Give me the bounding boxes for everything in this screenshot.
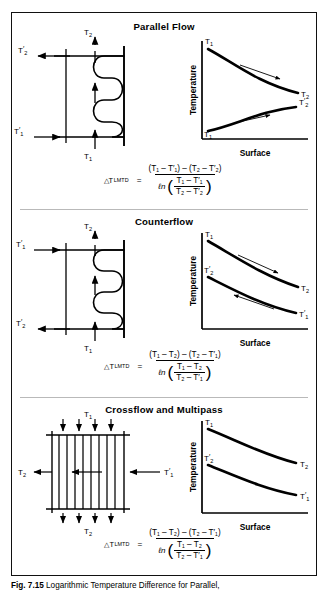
serpentine-tube [94, 250, 125, 329]
natural-log-symbol: ℓn [159, 369, 166, 377]
natural-log-symbol: ℓn [158, 183, 165, 191]
formula-equals: = [137, 541, 142, 549]
counterflow-chart: T1 T2 T′2 T′1 Surface Temperature [188, 230, 309, 348]
paren-open: ( [168, 545, 174, 557]
natural-log-symbol: ℓn [159, 547, 166, 555]
label-side-bottom: T′2 [16, 318, 25, 329]
label-side-bottom: T′1 [14, 126, 23, 137]
counterflow-graphics: T2 T1 T′1 T′2 T1 T2 T′2 T′1 Surface [12, 225, 316, 353]
tube-headers [54, 250, 124, 329]
crossflow-graphics: T1 T2 T2 T′1 T1 T2 T′2 T′1 Surface Tempe… [12, 413, 316, 535]
curve-hot-stream [208, 429, 296, 463]
tube-headers [54, 56, 124, 137]
parallel-flow-chart: T1 T2 T1 T′2 Surface Temperature [188, 37, 309, 158]
figure-caption: Fig. 7.15 Logarithmic Temperature Differ… [11, 581, 317, 595]
curve-hot-stream [208, 241, 298, 287]
figure-container: Parallel Flow [0, 0, 330, 596]
paren-close: ) [206, 181, 212, 193]
chart-label-hot-start: T1 [205, 418, 213, 428]
formula-numerator: (T₁ – T₂) – (T₂ – T′₁) [146, 529, 223, 538]
chart-label-hot-start: T1 [205, 37, 213, 47]
paren-close: ) [206, 367, 212, 379]
parallel-flow-graphics: T2 T1 T′2 T′1 T1 T2 T1 T′2 Surface [12, 31, 316, 161]
side-flow-arrows [34, 56, 70, 137]
crossflow-chart: T1 T2 T′2 T′1 Surface Temperature [188, 418, 309, 532]
paren-close: ) [206, 545, 212, 557]
formula-log-numerator: T₁ – T₂ [175, 541, 204, 550]
caption-text: Logarithmic Temperature Difference for P… [46, 581, 220, 590]
curve-cold-stream [208, 465, 296, 495]
chart-label-cold-end: T′1 [300, 491, 309, 502]
formula-lhs: △TLMTD [104, 177, 129, 184]
chart-ylabel: Temperature [188, 442, 198, 492]
formula-equals: = [137, 363, 142, 371]
caption-label: Fig. 7.15 [11, 581, 44, 590]
formula-log-numerator: T₁ – T₂ [175, 363, 204, 372]
label-side-right: T′1 [164, 467, 173, 478]
direction-arrow-cold [234, 295, 274, 309]
formula-lhs: △TLMTD [104, 541, 129, 548]
top-inlet-arrows [63, 419, 111, 431]
figure-frame: Parallel Flow [11, 12, 317, 576]
section-counterflow: Counterflow [12, 209, 316, 397]
formula-denominator: ℓn ( T₁ – T₂ T₂ – T′₁ ) [156, 538, 215, 560]
chart-ylabel: Temperature [188, 65, 198, 115]
section-parallel-flow: Parallel Flow [12, 13, 316, 209]
formula-lhs: △TLMTD [104, 363, 129, 370]
chart-ylabel: Temperature [188, 256, 198, 306]
chart-label-hot-start: T1 [205, 230, 213, 240]
formula-log-denominator: T₂ – T′₂ [174, 186, 205, 196]
chart-label-cold-start: T′2 [204, 265, 213, 276]
formula-crossflow: △TLMTD = (T₁ – T₂) – (T₂ – T′₁) ℓn ( T₁ … [12, 529, 316, 561]
paren-open: ( [167, 181, 173, 193]
formula-equals: = [137, 177, 142, 185]
formula-parallel-flow: △TLMTD = (T₁ – T′₁) – (T₂ – T′₂) ℓn ( T₁… [12, 165, 316, 197]
serpentine-tube [94, 56, 125, 137]
formula-denominator: ℓn ( T₁ – T₂ T₂ – T′₁ ) [156, 360, 215, 382]
formula-log-denominator: T₂ – T′₁ [174, 372, 204, 382]
formula-numerator: (T₁ – T′₁) – (T₂ – T′₂) [146, 165, 225, 174]
paren-open: ( [168, 367, 174, 379]
label-side-top: T′2 [18, 45, 27, 56]
chart-xlabel: Surface [240, 148, 271, 158]
chart-xlabel: Surface [240, 338, 271, 348]
label-side-left: T2 [18, 468, 26, 478]
label-side-top: T′1 [16, 239, 25, 250]
bottom-outlet-arrows [63, 513, 111, 523]
formula-counterflow: △TLMTD = (T₁ – T₂) – (T₂ – T′₁) ℓn ( T₁ … [12, 351, 316, 383]
chart-label-cold-start: T′2 [204, 453, 213, 464]
chart-label-hot-end: T2 [300, 460, 308, 470]
formula-numerator: (T₁ – T₂) – (T₂ – T′₁) [146, 351, 223, 360]
formula-denominator: ℓn ( T₁ – T′₁ T₂ – T′₂ ) [155, 174, 214, 196]
chart-label-cold-end: T′1 [299, 309, 308, 320]
chart-label-hot-end: T2 [301, 284, 309, 294]
formula-log-denominator: T₂ – T′₁ [174, 550, 204, 560]
side-flow-arrows [34, 250, 70, 329]
section-crossflow-multipass: Crossflow and Multipass [12, 397, 316, 577]
label-inlet-bottom: T1 [84, 152, 92, 162]
formula-log-numerator: T₁ – T′₁ [174, 177, 204, 186]
curve-hot-stream [208, 49, 298, 93]
